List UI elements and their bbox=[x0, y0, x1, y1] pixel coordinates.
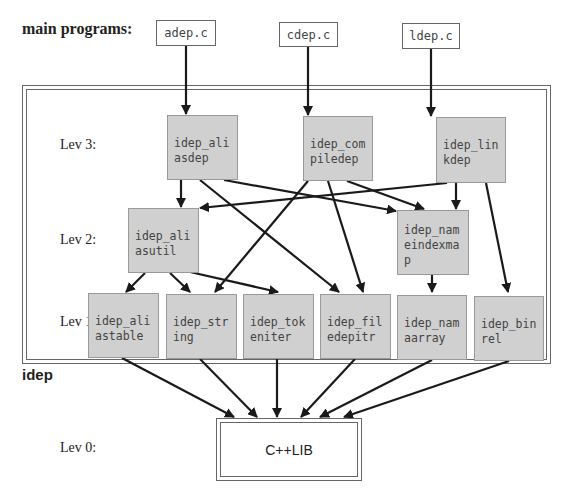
component-idep-nameindexmap[interactable]: idep_nam eindexma p bbox=[397, 210, 469, 275]
component-idep-binrel[interactable]: idep_bin rel bbox=[474, 296, 544, 361]
library-cpplib[interactable]: C++LIB bbox=[216, 418, 362, 481]
component-idep-aliastable[interactable]: idep_ali astable bbox=[88, 293, 159, 358]
component-idep-tokeniter[interactable]: idep_tok eniter bbox=[243, 294, 314, 359]
component-idep-compiledep[interactable]: idep_com piledep bbox=[303, 116, 373, 181]
main-program-cdep[interactable]: cdep.c bbox=[279, 22, 338, 47]
dependency-diagram: main programs: idep Lev 3: Lev 2: Lev 1:… bbox=[0, 0, 573, 500]
component-idep-filedepitr[interactable]: idep_fil edepitr bbox=[320, 294, 391, 359]
component-idep-linkdep[interactable]: idep_lin kdep bbox=[436, 117, 506, 183]
main-program-adep[interactable]: adep.c bbox=[156, 20, 216, 46]
main-program-ldep[interactable]: ldep.c bbox=[402, 23, 460, 49]
component-idep-aliasutil[interactable]: idep_ali asutil bbox=[128, 208, 199, 273]
component-idep-aliasdep[interactable]: idep_ali asdep bbox=[167, 115, 238, 180]
component-idep-namarray[interactable]: idep_nam aarray bbox=[397, 295, 467, 360]
component-idep-string[interactable]: idep_str ing bbox=[166, 294, 237, 359]
library-cpplib-label: C++LIB bbox=[220, 422, 358, 477]
